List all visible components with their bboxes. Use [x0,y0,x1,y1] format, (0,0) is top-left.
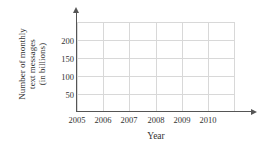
gridline-vertical [156,22,157,112]
plot-area [77,22,235,112]
y-tick-label-150: 150 [50,55,74,64]
x-axis-line [76,111,253,112]
y-axis-title-line-2: text messages [27,28,37,100]
y-axis-title-line-3: (in billions) [37,28,47,100]
y-axis-tick-labels: 200 150 100 50 [48,0,74,154]
x-tick-label-2010: 2010 [188,115,228,125]
y-tick-label-200: 200 [50,37,74,46]
y-tick-label-100: 100 [50,73,74,82]
gridline-vertical [129,22,130,112]
gridline-vertical [208,22,209,112]
y-axis-line [76,11,77,112]
gridline-vertical [234,22,235,112]
arrow-right-icon [251,109,257,115]
y-axis-title-line-1: Number of monthly [17,28,27,100]
y-tick-label-50: 50 [50,91,74,100]
chart-screenshot: Number of monthly text messages (in bill… [0,0,267,154]
gridline-vertical [103,22,104,112]
gridline-vertical [182,22,183,112]
x-axis-title: Year [77,131,235,141]
arrow-up-icon [73,7,79,13]
